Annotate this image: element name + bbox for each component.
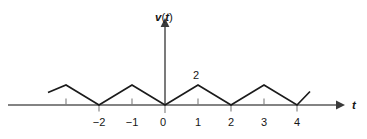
y-axis-label-paren-close: ) — [169, 11, 173, 23]
waveform-figure: v(t) t 2 −2 −1 0 1 2 3 4 — [0, 0, 367, 139]
y-axis-label: v(t) — [155, 11, 173, 23]
plot-canvas: v(t) t 2 −2 −1 0 1 2 3 4 — [0, 0, 367, 139]
y-axis-group — [161, 18, 170, 105]
x-axis-label: t — [352, 99, 357, 111]
tick-label-t-2: 2 — [228, 116, 234, 128]
tick-label-t-3: 3 — [261, 116, 267, 128]
tick-label-t-minus-2: −2 — [93, 116, 106, 128]
tick-label-t-4: 4 — [294, 116, 300, 128]
x-axis-arrow-icon — [336, 101, 345, 110]
tick-label-t-0: 0 — [160, 116, 166, 128]
peak-amplitude-label: 2 — [193, 69, 199, 81]
tick-labels-group: −2 −1 0 1 2 3 4 — [93, 116, 300, 128]
tick-label-t-1: 1 — [195, 116, 201, 128]
waveform-trace — [48, 85, 310, 105]
x-axis-group — [8, 101, 345, 110]
tick-label-t-minus-1: −1 — [126, 116, 139, 128]
